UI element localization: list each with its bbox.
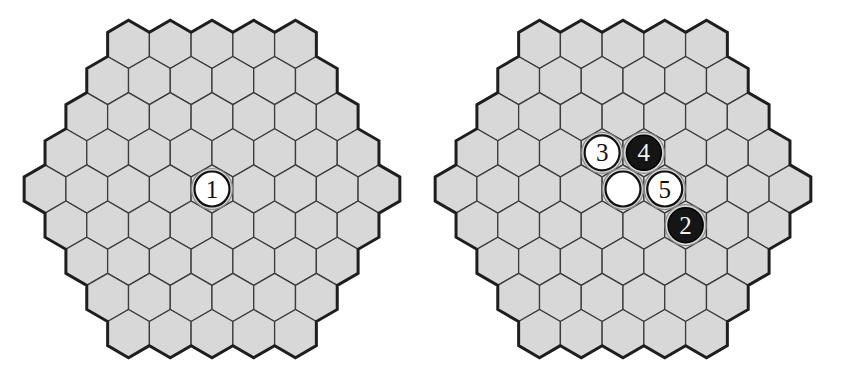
hex-board-left: 1 xyxy=(24,20,400,357)
move-number-label: 1 xyxy=(206,176,219,203)
move-number-label: 5 xyxy=(658,176,671,203)
white-stone-5: 5 xyxy=(644,169,685,210)
move-number-label: 3 xyxy=(596,139,609,166)
black-stone-4: 4 xyxy=(623,132,664,173)
white-stone-3: 3 xyxy=(582,132,623,173)
white-stone-unlabeled xyxy=(603,169,644,210)
move-number-label: 4 xyxy=(638,139,651,166)
black-stone-2: 2 xyxy=(665,205,706,246)
move-number-label: 2 xyxy=(679,212,692,239)
hex-board-right: 2345 xyxy=(435,20,811,357)
hex-boards-figure: 1 2345 xyxy=(0,0,844,381)
white-stone-1: 1 xyxy=(192,169,233,210)
